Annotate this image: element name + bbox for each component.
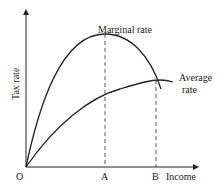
tax-rate-chart: Marginal rate Average rate Tax rate O A …: [0, 0, 223, 186]
average-rate-curve: [26, 80, 173, 167]
y-axis-label: Tax rate: [10, 67, 21, 100]
marginal-rate-label: Marginal rate: [98, 24, 153, 35]
tick-label-b: B: [152, 171, 159, 182]
origin-label: O: [16, 171, 23, 182]
average-rate-label-line1: Average: [179, 72, 213, 83]
x-axis-label: Income: [166, 171, 197, 182]
tick-label-a: A: [101, 171, 109, 182]
average-rate-label-line2: rate: [182, 84, 198, 95]
